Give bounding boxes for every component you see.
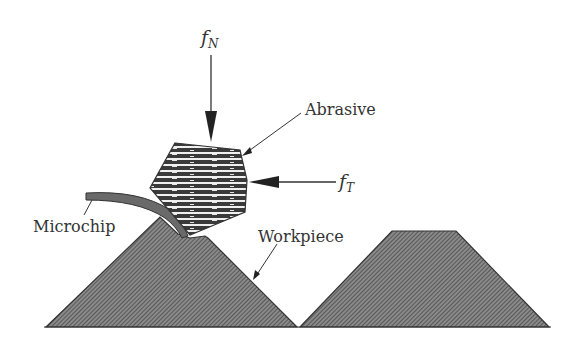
tangential-force-label: fT (337, 170, 355, 195)
normal-force-label: fN (199, 26, 219, 51)
workpiece-leader (256, 244, 277, 276)
abrasive-leader-arrowhead (242, 147, 252, 156)
tangential-force-arrowhead (249, 176, 279, 188)
abrasive-leader (246, 113, 301, 153)
normal-force-arrowhead (205, 111, 217, 142)
workpiece-label: Workpiece (258, 227, 344, 246)
microchip-leader (84, 200, 92, 215)
abrasive-machining-diagram: fN fT Abrasive Microchip Workpiece (0, 0, 582, 343)
abrasive-label: Abrasive (304, 100, 376, 119)
microchip-label: Microchip (33, 217, 115, 236)
